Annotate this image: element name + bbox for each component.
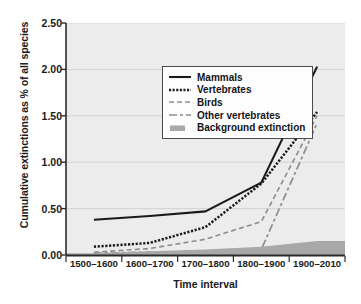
y-tick-label: 0.00 xyxy=(28,249,62,261)
x-tick-label: 1900–2010 xyxy=(293,258,341,269)
x-tick-label: 1800–1900 xyxy=(237,258,285,269)
y-tick-label: 2.00 xyxy=(28,63,62,75)
dash-dot-line-swatch xyxy=(168,110,192,120)
legend-label-mammals: Mammals xyxy=(197,72,243,83)
x-tick-label: 1600–1700 xyxy=(126,258,174,269)
legend-label-other-vertebrates: Other vertebrates xyxy=(197,110,280,121)
legend-label-vertebrates: Vertebrates xyxy=(197,84,251,95)
plot-area: Mammals Vertebrates Birds Other vertebra… xyxy=(66,23,345,255)
x-tick-label: 1500–1600 xyxy=(70,258,118,269)
legend-item-vertebrates: Vertebrates xyxy=(168,84,305,97)
y-tick-label: 0.50 xyxy=(28,203,62,215)
legend-label-background-extinction: Background extinction xyxy=(197,122,305,133)
series-line-other-vertebrates xyxy=(94,123,317,253)
y-tick-label: 1.00 xyxy=(28,156,62,168)
legend-item-other-vertebrates: Other vertebrates xyxy=(168,109,305,122)
x-axis-title: Time interval xyxy=(66,278,345,290)
y-tick-label: 1.50 xyxy=(28,110,62,122)
legend-item-birds: Birds xyxy=(168,96,305,109)
chart-legend: Mammals Vertebrates Birds Other vertebra… xyxy=(162,66,313,139)
x-tick-label: 1700–1800 xyxy=(181,258,229,269)
plot-svg xyxy=(66,23,345,255)
dotted-line-swatch xyxy=(168,85,192,95)
dashed-line-swatch xyxy=(168,97,192,107)
solid-line-swatch xyxy=(168,72,192,82)
legend-item-mammals: Mammals xyxy=(168,71,305,84)
y-tick-label: 2.50 xyxy=(28,17,62,29)
extinction-line-chart: Cumulative extinctions as % of all speci… xyxy=(0,0,361,304)
filled-area-swatch xyxy=(168,123,192,133)
legend-item-background-extinction: Background extinction xyxy=(168,121,305,134)
legend-label-birds: Birds xyxy=(197,97,223,108)
series-area-background-extinction xyxy=(66,241,345,255)
y-axis-tick-labels: 0.000.501.001.502.002.50 xyxy=(24,0,62,304)
